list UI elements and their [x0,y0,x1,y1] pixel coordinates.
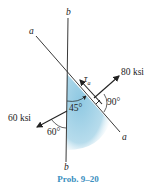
angle-60-label: 60° [47,128,60,138]
normal-arrow-right [94,76,119,98]
label-b-top: b [66,8,71,18]
label-a-top: a [29,27,34,37]
stress-60-label: 60 ksi [8,114,31,124]
stress-80-label: 80 ksi [121,68,144,78]
figure-caption: Prob. 9–20 [0,174,156,184]
label-a-bottom: a [122,133,127,143]
stress-element-diagram [0,0,156,188]
tau-label: τa [84,75,90,86]
angle-90-label: 90° [107,98,120,108]
angle-45-label: 45° [69,104,82,114]
label-b-bottom: b [64,163,69,173]
normal-arrow-left [37,111,67,127]
